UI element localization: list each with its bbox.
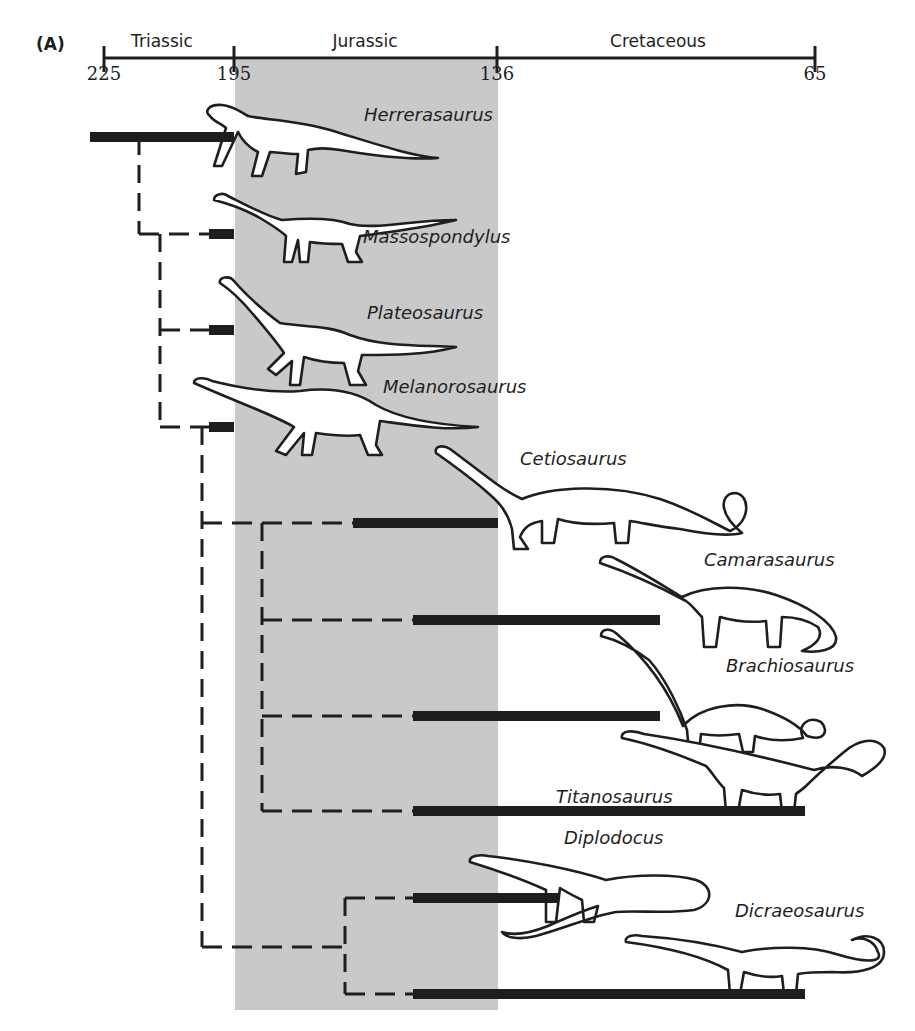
taxon-label-cetiosaurus: Cetiosaurus	[520, 448, 627, 469]
massospondylus-range-bar	[209, 229, 234, 239]
period-label-cretaceous: Cretaceous	[610, 31, 706, 51]
tick-label: 195	[217, 63, 251, 84]
diplodocus-range-bar	[413, 893, 558, 903]
camarasaurus-range-bar	[413, 615, 660, 625]
tick-label: 136	[480, 63, 514, 84]
dinosaur-outline	[600, 556, 836, 651]
taxon-label-plateosaurus: Plateosaurus	[367, 302, 483, 323]
taxon-label-camarasaurus: Camarasaurus	[704, 549, 835, 570]
dicraeosaurus-range-bar	[413, 989, 805, 999]
titanosaurus-range-bar	[413, 806, 805, 816]
taxon-label-herrerasaurus: Herrerasaurus	[364, 104, 493, 125]
tick-label: 65	[804, 63, 827, 84]
camarasaurus-illustration	[600, 556, 836, 651]
phylogeny-figure: (A) TriassicJurassicCretaceous 225195136…	[0, 0, 915, 1031]
tick-label: 225	[87, 63, 121, 84]
panel-label: (A)	[36, 34, 65, 54]
taxon-label-titanosaurus: Titanosaurus	[556, 786, 673, 807]
plateosaurus-range-bar	[209, 325, 234, 335]
jurassic-band	[235, 60, 498, 1010]
taxon-label-brachiosaurus: Brachiosaurus	[726, 655, 854, 676]
taxon-label-melanorosaurus: Melanorosaurus	[383, 376, 526, 397]
brachiosaurus-range-bar	[413, 711, 660, 721]
taxon-label-massospondylus: Massospondylus	[363, 226, 510, 247]
herrerasaurus-range-bar	[90, 132, 234, 142]
taxon-label-dicraeosaurus: Dicraeosaurus	[735, 900, 864, 921]
dicraeosaurus-illustration	[626, 935, 884, 994]
phylogeny-canvas	[0, 0, 915, 1031]
period-label-jurassic: Jurassic	[333, 31, 398, 51]
dinosaur-outline	[626, 935, 884, 994]
period-label-triassic: Triassic	[131, 31, 193, 51]
cetiosaurus-range-bar	[353, 518, 498, 528]
taxon-label-diplodocus: Diplodocus	[564, 827, 663, 848]
melanorosaurus-range-bar	[209, 422, 234, 432]
